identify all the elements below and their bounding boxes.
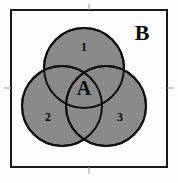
region-label-3: 3 xyxy=(117,110,123,124)
region-label-1: 1 xyxy=(81,40,87,54)
venn-diagram-figure: B 1 A 2 3 xyxy=(0,0,178,183)
region-label-2: 2 xyxy=(45,110,51,124)
venn-diagram-canvas: B 1 A 2 3 xyxy=(0,0,178,183)
center-label-a: A xyxy=(77,77,92,99)
universe-label-b: B xyxy=(135,20,150,45)
